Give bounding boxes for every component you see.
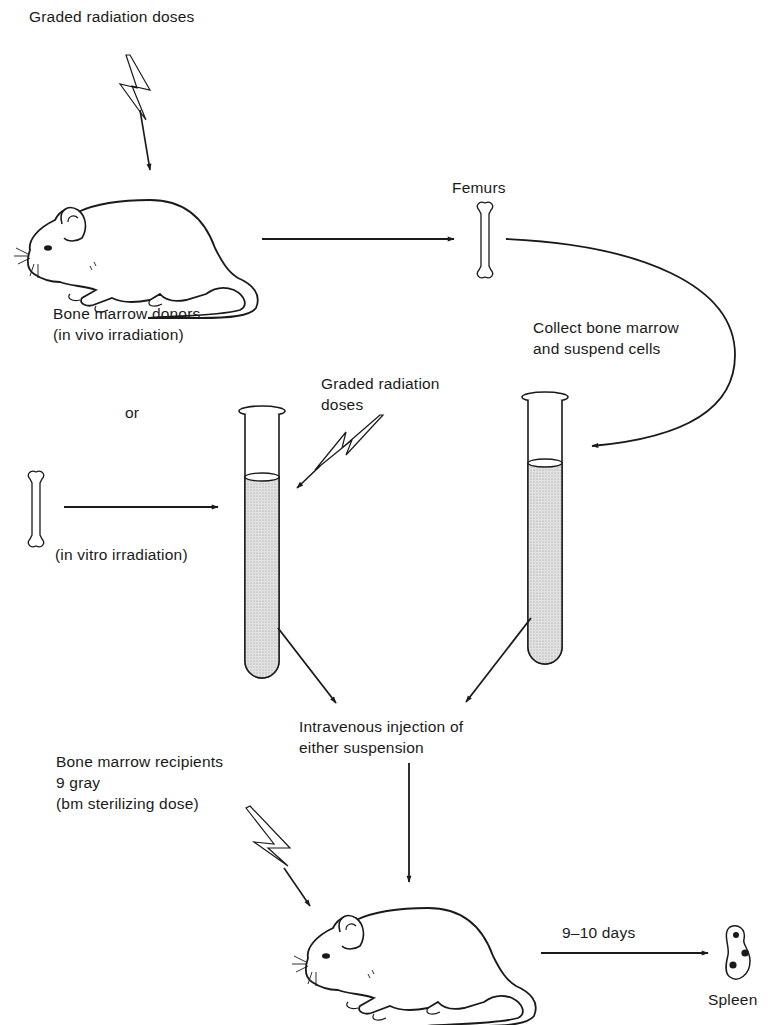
spleen-label: Spleen: [708, 989, 757, 1010]
test-tube-icon: [522, 392, 568, 664]
mouse-icon: [292, 908, 536, 1025]
test-tube-icon: [239, 406, 285, 678]
lightning-bolt-icon: [120, 55, 150, 170]
or-label: or: [125, 402, 139, 423]
donors-label-line2: (in vivo irradiation): [53, 324, 184, 345]
diagram-canvas: [0, 0, 784, 1025]
recipients-label-line3: (bm sterilizing dose): [56, 793, 199, 814]
spleen-icon: [726, 926, 750, 979]
donor-radiation-label: Graded radiation doses: [29, 6, 195, 27]
bone-icon: [28, 471, 43, 547]
bone-icon: [477, 202, 492, 278]
recipients-label-line1: Bone marrow recipients: [56, 751, 223, 772]
arrow-left-tube-to-injection: [278, 628, 336, 703]
tube-radiation-label-line2: doses: [321, 394, 363, 415]
mouse-icon: [14, 200, 258, 318]
injection-label-line1: Intravenous injection of: [299, 716, 463, 737]
injection-label-line2: either suspension: [299, 737, 424, 758]
duration-label: 9–10 days: [562, 922, 635, 943]
collect-label-line1: Collect bone marrow: [533, 317, 679, 338]
donors-label-line1: Bone marrow donors: [53, 303, 200, 324]
lightning-bolt-icon: [297, 415, 383, 488]
collect-label-line2: and suspend cells: [533, 338, 660, 359]
femurs-label: Femurs: [452, 177, 506, 198]
tube-radiation-label-line1: Graded radiation: [321, 373, 440, 394]
in-vitro-label: (in vitro irradiation): [55, 544, 188, 565]
recipients-label-line2: 9 gray: [56, 772, 100, 793]
arrow-right-tube-to-injection: [466, 618, 531, 702]
lightning-bolt-icon: [246, 806, 310, 906]
